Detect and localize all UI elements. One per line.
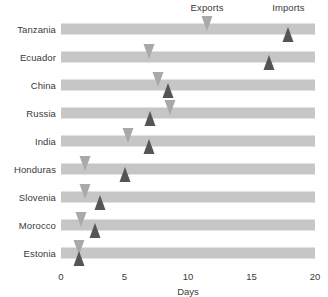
row-label-slovenia: Slovenia — [19, 192, 56, 203]
chart-row: Ecuador — [0, 43, 328, 71]
row-label-tanzania: Tanzania — [17, 24, 56, 35]
bar-track — [61, 24, 315, 35]
x-axis-title: Days — [177, 286, 199, 297]
plot-area: TanzaniaEcuadorChinaRussiaIndiaHondurasS… — [0, 0, 328, 297]
chart-container: Exports Imports TanzaniaEcuadorChinaRuss… — [0, 0, 328, 297]
x-tick-label: 0 — [58, 271, 63, 282]
row-label-estonia: Estonia — [24, 248, 56, 259]
row-label-china: China — [31, 80, 56, 91]
x-tick-label: 5 — [122, 271, 127, 282]
x-axis: Days 05101520 — [0, 271, 328, 297]
x-tick-label: 10 — [183, 271, 194, 282]
row-label-russia: Russia — [26, 108, 56, 119]
row-label-honduras: Honduras — [14, 164, 56, 175]
row-label-ecuador: Ecuador — [20, 52, 56, 63]
bar-track — [61, 192, 315, 203]
bar-track — [61, 52, 315, 63]
chart-row: Slovenia — [0, 183, 328, 211]
x-tick-label: 20 — [310, 271, 321, 282]
bar-track — [61, 80, 315, 91]
bar-track — [61, 220, 315, 231]
chart-row: Russia — [0, 99, 328, 127]
chart-row: India — [0, 127, 328, 155]
bar-track — [61, 164, 315, 175]
chart-row: Estonia — [0, 239, 328, 267]
bar-track — [61, 108, 315, 119]
bar-track — [61, 136, 315, 147]
row-label-india: India — [35, 136, 56, 147]
chart-row: Tanzania — [0, 15, 328, 43]
row-label-morocco: Morocco — [19, 220, 56, 231]
chart-row: China — [0, 71, 328, 99]
chart-row: Morocco — [0, 211, 328, 239]
bar-track — [61, 248, 315, 259]
chart-row: Honduras — [0, 155, 328, 183]
x-tick-label: 15 — [246, 271, 257, 282]
